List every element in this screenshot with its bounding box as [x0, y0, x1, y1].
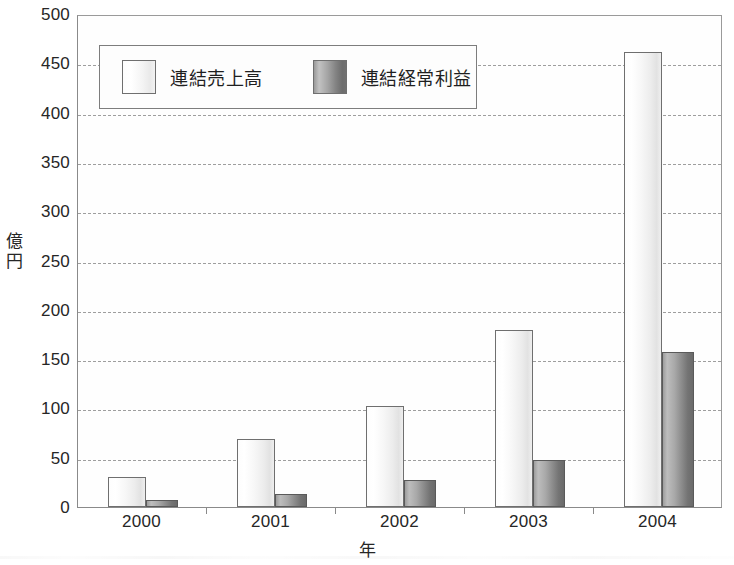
legend: 連結売上高 連結経常利益 [99, 45, 477, 109]
y-axis-tick-value: 100 [24, 399, 70, 419]
y-axis-tick-value: 400 [24, 104, 70, 124]
y-axis-tick-value: 500 [24, 5, 70, 25]
bar-chart: 億円 050100150200250300350400450500 連結売上高 … [0, 0, 734, 565]
y-axis-tick-label: 150 [24, 360, 70, 380]
y-axis-tick-value: 150 [24, 350, 70, 370]
y-axis-tick-label: 350 [24, 163, 70, 183]
y-axis-tick-value: 200 [24, 301, 70, 321]
bar-profit-2002 [404, 480, 436, 507]
bar-sales-2001 [237, 439, 275, 507]
y-axis-tick-value: 250 [24, 252, 70, 272]
legend-label-profit: 連結経常利益 [361, 64, 472, 90]
y-axis-tick-label: 50 [24, 459, 70, 479]
x-axis-tick-mark [464, 508, 465, 514]
legend-item-profit: 連結経常利益 [313, 46, 472, 108]
legend-swatch-sales-icon [122, 60, 156, 94]
scan-artifact [0, 556, 734, 559]
x-axis-tick-label: 2000 [82, 512, 202, 532]
x-axis-tick-mark [593, 508, 594, 514]
y-axis-tick-label: 250 [24, 262, 70, 282]
bar-profit-2003 [533, 460, 565, 507]
legend-item-sales: 連結売上高 [122, 46, 263, 108]
y-axis-tick-value: 450 [24, 54, 70, 74]
y-axis-tick-label: 500 [24, 15, 70, 35]
bar-profit-2000 [146, 500, 178, 507]
bar-sales-2004 [624, 52, 662, 507]
y-axis-tick-value: 350 [24, 153, 70, 173]
y-axis-title: 億円 [4, 232, 24, 272]
y-axis-tick-label: 300 [24, 212, 70, 232]
x-axis-tick-label: 2003 [469, 512, 589, 532]
y-axis-tick-value: 0 [24, 498, 70, 518]
bar-sales-2003 [495, 330, 533, 507]
y-axis-tick-label: 0 [24, 508, 70, 528]
x-axis-tick-label: 2001 [211, 512, 331, 532]
x-axis-tick-label: 2004 [598, 512, 718, 532]
y-axis-tick-value: 300 [24, 202, 70, 222]
legend-label-sales: 連結売上高 [170, 64, 263, 90]
y-axis-tick-label: 450 [24, 64, 70, 84]
y-axis-tick-label: 200 [24, 311, 70, 331]
bar-sales-2002 [366, 406, 404, 507]
x-axis-tick-mark [335, 508, 336, 514]
x-axis-tick-mark [206, 508, 207, 514]
y-axis-tick-label: 100 [24, 409, 70, 429]
y-axis-tick-label: 400 [24, 114, 70, 134]
bar-sales-2000 [108, 477, 146, 507]
legend-swatch-profit-icon [313, 60, 347, 94]
y-axis-tick-value: 50 [24, 449, 70, 469]
bar-profit-2001 [275, 494, 307, 507]
x-axis-tick-label: 2002 [340, 512, 460, 532]
bar-profit-2004 [662, 352, 694, 507]
